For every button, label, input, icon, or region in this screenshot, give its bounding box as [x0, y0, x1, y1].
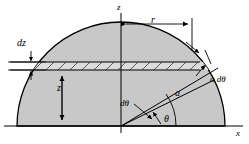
figure-container: z r dz z a dθ a dθ θ x [0, 0, 249, 144]
dtheta-label: dθ [120, 99, 129, 108]
x-axis-label: x [236, 129, 240, 138]
z-axis-label: z [117, 3, 121, 12]
radius-a-label: a [175, 88, 180, 98]
height-z-label: z [57, 83, 61, 93]
radius-r-label: r [151, 15, 155, 25]
diagram-canvas [0, 0, 249, 144]
theta-label: θ [164, 114, 169, 124]
dz-label: dz [17, 38, 26, 48]
arc-element-label: a dθ [210, 75, 226, 84]
